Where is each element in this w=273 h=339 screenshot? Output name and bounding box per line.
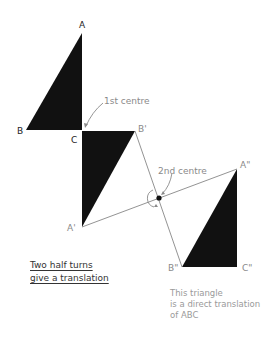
label-c: C	[71, 135, 77, 145]
triangle-a1b1c	[82, 131, 135, 227]
label-a: A	[79, 20, 85, 30]
label-b1: B'	[138, 124, 147, 134]
triangle-a2b2c2	[182, 169, 237, 267]
rotation-arc-icon	[147, 190, 154, 207]
rotation-arrowhead-icon	[154, 204, 158, 207]
first-centre-label: 1st centre	[104, 96, 150, 106]
label-c2: C"	[242, 263, 252, 273]
label-b2: B"	[168, 263, 178, 273]
caption: Two half turns give a translation	[30, 259, 109, 285]
caption-line-2: give a translation	[30, 272, 109, 285]
note-line-3: of ABC	[170, 310, 260, 321]
label-a1: A'	[67, 223, 76, 233]
note-line-2: is a direct translation	[170, 299, 260, 310]
triangle-abc	[26, 33, 82, 130]
translation-note: This triangle is a direct translation of…	[170, 288, 260, 321]
second-centre-arrow	[162, 173, 172, 194]
second-centre-label: 2nd centre	[158, 166, 207, 176]
label-b: B	[17, 126, 23, 136]
second-centre-dot	[156, 195, 161, 200]
note-line-1: This triangle	[170, 288, 260, 299]
first-centre-arrow	[86, 103, 103, 126]
label-a2: A"	[240, 160, 250, 170]
caption-line-1: Two half turns	[30, 259, 109, 272]
